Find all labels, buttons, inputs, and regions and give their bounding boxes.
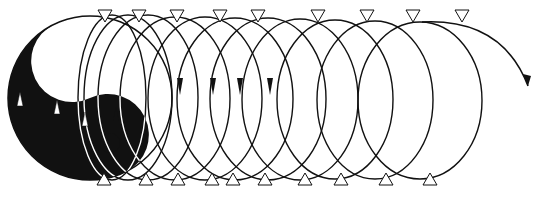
- yin-yang-spiral-diagram: [0, 0, 548, 199]
- triangle-down-marker: [406, 10, 420, 22]
- diagram-canvas: [0, 0, 548, 199]
- triangle-down-marker: [455, 10, 469, 22]
- triangle-down-marker: [360, 10, 374, 22]
- exit-arc: [422, 22, 528, 86]
- spiral-loop: [210, 18, 326, 180]
- triangle-down-marker: [170, 10, 184, 22]
- arrow-down-icon: [267, 78, 273, 95]
- spiral-loop: [242, 19, 358, 180]
- triangle-down-marker: [311, 10, 325, 22]
- triangle-up-marker: [205, 173, 219, 185]
- spiral-loop: [358, 22, 482, 179]
- spiral-loop: [177, 18, 293, 180]
- triangle-down-marker: [213, 10, 227, 22]
